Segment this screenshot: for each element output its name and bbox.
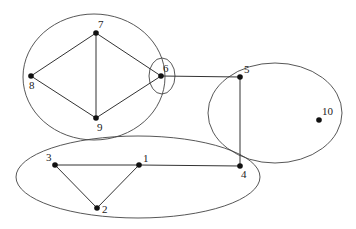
node-dot (93, 30, 99, 36)
node-7: 7 (93, 18, 104, 36)
node-label: 2 (102, 203, 108, 215)
node-label: 9 (97, 121, 103, 133)
node-9: 9 (93, 115, 103, 133)
node-label: 7 (98, 18, 104, 30)
group-1-2-3-4-ellipse (16, 136, 260, 218)
node-dot (237, 74, 243, 80)
edge-8-9 (31, 76, 96, 118)
node-dot (28, 73, 34, 79)
node-label: 4 (241, 168, 247, 180)
group-ellipses (16, 14, 342, 218)
edge-9-6 (96, 76, 161, 118)
node-8: 8 (28, 73, 35, 91)
node-label: 6 (163, 62, 169, 74)
node-dot (136, 162, 142, 168)
edge-1-2 (97, 165, 139, 208)
edge-3-2 (55, 165, 97, 208)
node-label: 10 (322, 105, 334, 117)
edge-7-8 (31, 33, 96, 76)
node-label: 5 (244, 63, 250, 75)
node-2: 2 (94, 203, 107, 215)
node-dot (52, 162, 58, 168)
node-dot (316, 117, 322, 123)
graph-diagram: 12345678910 (0, 0, 356, 229)
node-dot (158, 73, 164, 79)
node-dot (94, 205, 100, 211)
edge-6-5 (161, 76, 240, 77)
node-dot (93, 115, 99, 121)
node-3: 3 (46, 151, 58, 168)
node-5: 5 (237, 63, 250, 80)
edge-1-4 (139, 165, 240, 166)
node-10: 10 (316, 105, 333, 123)
node-4: 4 (237, 163, 247, 180)
node-label: 1 (143, 152, 149, 164)
node-label: 8 (29, 79, 35, 91)
node-label: 3 (46, 151, 52, 163)
